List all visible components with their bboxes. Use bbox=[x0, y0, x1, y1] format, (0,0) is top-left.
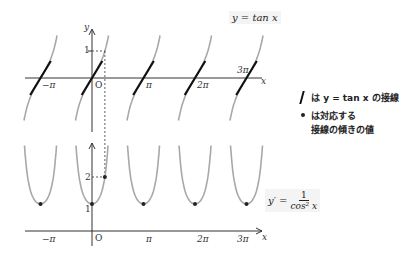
bottom-y-tick-2: 2 bbox=[85, 173, 91, 182]
minimum-point-0 bbox=[39, 202, 43, 206]
derivative-formula-numerator: 1 bbox=[299, 190, 309, 201]
sec2-branch-0 bbox=[25, 146, 57, 205]
derivative-formula-denominator: cos² x bbox=[290, 201, 317, 211]
top-origin-label: O bbox=[95, 81, 102, 90]
legend-dot-text-2: 接線の傾きの値 bbox=[311, 123, 374, 136]
bottom-origin-label: O bbox=[95, 234, 102, 243]
highlight-point bbox=[103, 175, 107, 179]
minimum-point-2 bbox=[142, 202, 146, 206]
bottom-x-axis-label: x bbox=[262, 233, 267, 242]
bottom-x-tick-2pi: 2π bbox=[197, 235, 209, 244]
minimum-point-3 bbox=[193, 202, 197, 206]
top-y-tick-1: 1 bbox=[84, 46, 90, 55]
bottom-x-tick-pi: π bbox=[146, 235, 152, 244]
sec2-branch-2 bbox=[128, 146, 160, 205]
legend: は y = tan x の接線 は対応する 接線の傾きの値 bbox=[298, 90, 399, 136]
top-x-tick-pi: π bbox=[146, 81, 152, 90]
minimum-point-4 bbox=[245, 202, 249, 206]
tangent-line-icon bbox=[298, 91, 308, 103]
top-x-axis-label: x bbox=[261, 77, 266, 86]
bottom-x-tick-3pi: 3π bbox=[237, 235, 249, 244]
bottom-x-tick-neg-pi: −π bbox=[42, 235, 55, 244]
legend-dot-row-2: 接線の傾きの値 bbox=[298, 122, 399, 136]
top-x-tick-neg-pi: −π bbox=[42, 81, 55, 90]
derivative-formula-lhs: y′ = bbox=[268, 195, 287, 206]
legend-dot-text-1: は対応する bbox=[311, 109, 356, 122]
legend-dot-row: は対応する bbox=[298, 108, 399, 122]
derivative-formula-label: y′ = 1 cos² x bbox=[265, 189, 320, 212]
top-x-tick-3pi: 3π bbox=[237, 66, 249, 75]
sec2-branch-3 bbox=[179, 146, 211, 205]
sec2-branch-4 bbox=[231, 146, 263, 205]
derivative-formula-fraction: 1 cos² x bbox=[290, 190, 317, 211]
bottom-y-tick-1: 1 bbox=[85, 205, 91, 214]
top-x-tick-2pi: 2π bbox=[197, 81, 209, 90]
tan-formula-label: y = tan x bbox=[229, 11, 281, 24]
top-y-axis-label: y bbox=[84, 23, 89, 32]
legend-tangent-row: は y = tan x の接線 bbox=[298, 90, 399, 104]
legend-tangent-text: は y = tan x の接線 bbox=[311, 91, 399, 104]
dot-icon bbox=[301, 113, 305, 117]
